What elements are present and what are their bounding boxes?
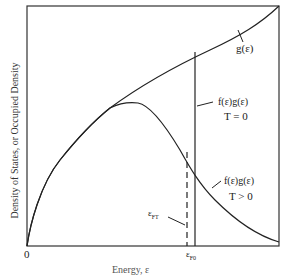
fg-tpos-label: f(ε)g(ε): [224, 175, 254, 186]
eft-subscript: FT: [152, 214, 159, 220]
fg-t0-label: f(ε)g(ε): [218, 96, 248, 107]
g-label: g(ε): [236, 42, 253, 54]
t0-label: T = 0: [224, 110, 248, 122]
fg-tpos-pointer: [212, 181, 221, 188]
fg-t0-pointer: [197, 102, 213, 106]
eft-pointer: [168, 217, 185, 225]
tpos-label: T > 0: [229, 190, 253, 202]
y-axis-label: Density of States, or Occupied Density: [9, 61, 20, 221]
ef0-tick-label: εF0: [186, 249, 196, 261]
x-axis-label: Energy, ε: [112, 264, 149, 275]
eft-label: εFT: [148, 208, 159, 220]
ef0-subscript: F0: [190, 255, 196, 261]
origin-tick-label: 0: [24, 248, 30, 260]
